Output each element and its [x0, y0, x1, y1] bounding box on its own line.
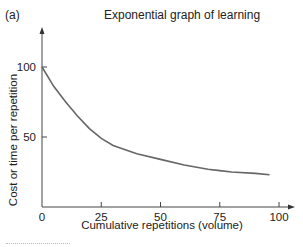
svg-text:50: 50 [23, 131, 36, 143]
y-axis-label: Cost or time per repetition [7, 74, 19, 206]
svg-text:100: 100 [269, 211, 288, 223]
svg-text:0: 0 [39, 211, 45, 223]
dotted-divider [6, 243, 70, 244]
svg-text:100: 100 [17, 61, 36, 73]
chart-plot: 025507510050100 Cumulative repetitions (… [0, 0, 303, 247]
axes: 025507510050100 [17, 27, 295, 223]
x-axis-label: Cumulative repetitions (volume) [81, 219, 243, 231]
learning-curve [42, 67, 270, 175]
